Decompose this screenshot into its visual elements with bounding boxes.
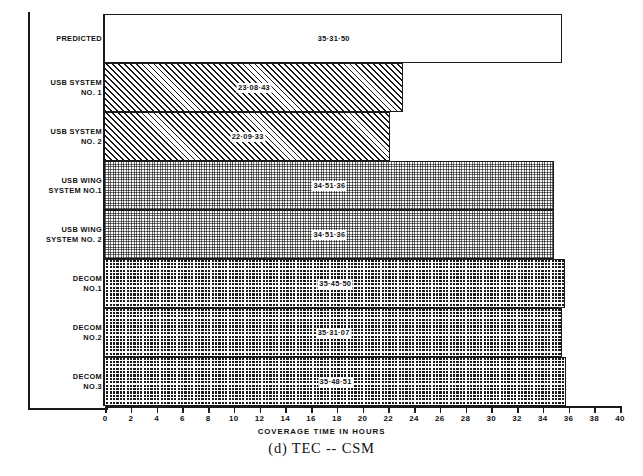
x-tick [620, 406, 622, 413]
category-label-line: USB SYSTEM [18, 78, 102, 88]
x-tick [414, 406, 416, 413]
category-label-line: SYSTEM NO.1 [18, 186, 102, 196]
bar-row: 23·08·43 [105, 63, 620, 112]
category-label: USB WINGSYSTEM NO. 2 [18, 225, 102, 244]
x-tick [594, 406, 596, 413]
x-tick-label: 6 [180, 414, 185, 423]
x-tick-label: 4 [154, 414, 159, 423]
bar-row: 34·51·36 [105, 210, 620, 259]
bar-value-label: 35·31·07 [316, 328, 351, 338]
x-tick [311, 406, 313, 413]
x-tick [131, 406, 133, 413]
category-label-line: PREDICTED [18, 34, 102, 44]
x-tick [543, 406, 545, 413]
category-label-column: PREDICTEDUSB SYSTEMNO. 1USB SYSTEMNO. 2U… [18, 14, 102, 406]
x-tick-label: 36 [564, 414, 574, 423]
x-tick [285, 406, 287, 413]
y-axis-line [103, 14, 105, 406]
x-tick-label: 38 [590, 414, 600, 423]
figure-bottom-rule [28, 408, 108, 410]
x-tick [157, 406, 159, 413]
category-label: USB SYSTEMNO. 1 [18, 78, 102, 97]
category-label-line: DECOM [18, 372, 102, 382]
x-axis-title: COVERAGE TIME IN HOURS [0, 427, 643, 436]
category-label-line: NO. 1 [18, 88, 102, 98]
category-label: DECOMNO.3 [18, 372, 102, 391]
x-tick [337, 406, 339, 413]
bar-row: 35·31·50 [105, 14, 620, 63]
bar-value-label: 34·51·36 [312, 181, 347, 191]
x-tick [440, 406, 442, 413]
category-label-line: NO. 2 [18, 137, 102, 147]
x-tick-label: 26 [435, 414, 445, 423]
x-tick-label: 18 [332, 414, 342, 423]
x-tick [466, 406, 468, 413]
category-label-line: USB WING [18, 225, 102, 235]
bar-row: 34·51·36 [105, 161, 620, 210]
x-tick-label: 20 [358, 414, 368, 423]
x-tick [105, 406, 107, 413]
bar-value-label: 22·09·33 [230, 132, 265, 142]
x-tick-label: 30 [487, 414, 497, 423]
category-label-line: NO.1 [18, 284, 102, 294]
x-tick-label: 32 [512, 414, 522, 423]
bar-row: 35·31·07 [105, 308, 620, 357]
category-label: PREDICTED [18, 34, 102, 44]
category-label: USB SYSTEMNO. 2 [18, 127, 102, 146]
category-label-line: NO.2 [18, 333, 102, 343]
x-tick [363, 406, 365, 413]
x-tick [234, 406, 236, 413]
bar-value-label: 34·51·36 [312, 230, 347, 240]
x-tick [208, 406, 210, 413]
category-label-line: USB WING [18, 176, 102, 186]
x-tick [491, 406, 493, 413]
x-tick-label: 22 [384, 414, 394, 423]
category-label-line: DECOM [18, 323, 102, 333]
x-tick [517, 406, 519, 413]
x-tick-label: 28 [461, 414, 471, 423]
bar-value-label: 35·31·50 [316, 34, 351, 44]
x-tick [182, 406, 184, 413]
x-tick-label: 0 [103, 414, 108, 423]
x-tick [569, 406, 571, 413]
bar-row: 22·09·33 [105, 112, 620, 161]
category-label: DECOMNO.2 [18, 323, 102, 342]
x-tick-label: 12 [255, 414, 265, 423]
x-tick-label: 8 [206, 414, 211, 423]
bar-row: 35·45·50 [105, 259, 620, 308]
x-tick [388, 406, 390, 413]
x-tick-label: 14 [281, 414, 291, 423]
category-label-line: NO.3 [18, 382, 102, 392]
x-tick-label: 16 [306, 414, 316, 423]
bar-value-label: 23·08·43 [236, 83, 271, 93]
bar-row: 35·48·51 [105, 357, 620, 406]
category-label-line: SYSTEM NO. 2 [18, 235, 102, 245]
x-tick-label: 24 [409, 414, 419, 423]
x-tick-label: 40 [615, 414, 625, 423]
category-label: USB WINGSYSTEM NO.1 [18, 176, 102, 195]
x-tick-label: 34 [538, 414, 548, 423]
x-tick [260, 406, 262, 413]
bar-value-label: 35·48·51 [318, 377, 353, 387]
bar-plot-area: 35·31·5023·08·4322·09·3334·51·3634·51·36… [105, 14, 620, 406]
bar-value-label: 35·45·50 [318, 279, 353, 289]
x-tick-label: 10 [229, 414, 239, 423]
category-label-line: USB SYSTEM [18, 127, 102, 137]
figure-tec-csm: PREDICTEDUSB SYSTEMNO. 1USB SYSTEMNO. 2U… [0, 0, 643, 476]
category-label-line: DECOM [18, 274, 102, 284]
x-tick-label: 2 [128, 414, 133, 423]
category-label: DECOMNO.1 [18, 274, 102, 293]
figure-caption: (d) TEC -- CSM [0, 440, 643, 457]
